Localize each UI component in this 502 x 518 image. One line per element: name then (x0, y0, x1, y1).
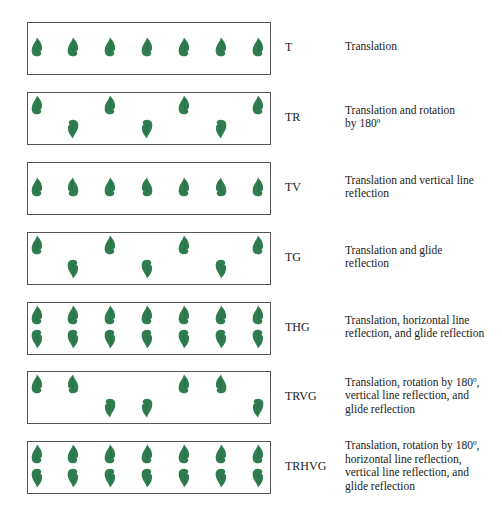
leaf-icon (67, 374, 79, 394)
pattern-description: Translation (345, 40, 502, 54)
pattern-row-thg: THGTranslation, horizontal linereflectio… (0, 302, 502, 356)
pattern-description: Translation and glidereflection (345, 244, 502, 271)
pattern-row-trhvg: TRHVGTranslation, rotation by 180º,horiz… (0, 441, 502, 495)
pattern-description: Translation, rotation by 180º,horizontal… (345, 439, 502, 493)
leaf-icon (215, 37, 227, 57)
leaf-icon (31, 374, 43, 394)
leaf-icon (215, 329, 227, 349)
leaf-icon (252, 37, 264, 57)
description-line: vertical line reflection, and (345, 466, 502, 480)
leaf-icon (178, 329, 190, 349)
leaf-icon (215, 305, 227, 325)
leaf-icon (141, 329, 153, 349)
leaf-icon (67, 468, 79, 488)
description-line: Translation, horizontal line (345, 314, 502, 328)
pattern-description: Translation, horizontal linereflection, … (345, 314, 502, 341)
leaf-icon (31, 235, 43, 255)
leaf-icon (252, 95, 264, 115)
description-line: Translation, rotation by 180º, (345, 376, 502, 390)
leaf-icon (31, 305, 43, 325)
leaf-icon (141, 37, 153, 57)
pattern-code: THG (285, 320, 310, 335)
pattern-description: Translation and rotationby 180º (345, 104, 502, 131)
leaf-icon (178, 95, 190, 115)
leaf-icon (31, 444, 43, 464)
leaf-icon (178, 374, 190, 394)
pattern-description: Translation and vertical linereflection (345, 174, 502, 201)
leaf-icon (31, 37, 43, 57)
description-line: Translation, rotation by 180º, (345, 439, 502, 453)
leaf-icon (215, 259, 227, 279)
pattern-row-tv: TVTranslation and vertical linereflectio… (0, 162, 502, 216)
description-line: by 180º (345, 117, 502, 131)
leaf-icon (67, 259, 79, 279)
leaf-icon (252, 468, 264, 488)
leaf-icon (104, 468, 116, 488)
description-line: vertical line reflection, and (345, 389, 502, 403)
leaf-icon (215, 444, 227, 464)
pattern-description: Translation, rotation by 180º,vertical l… (345, 376, 502, 417)
leaf-icon (178, 37, 190, 57)
leaf-icon (141, 398, 153, 418)
description-line: reflection (345, 257, 502, 271)
leaf-icon (141, 305, 153, 325)
description-line: glide reflection (345, 403, 502, 417)
leaf-icon (104, 95, 116, 115)
leaf-icon (252, 329, 264, 349)
leaf-icon (104, 398, 116, 418)
pattern-code: TG (285, 250, 301, 265)
description-line: reflection, and glide reflection (345, 327, 502, 341)
description-line: reflection (345, 187, 502, 201)
pattern-row-tg: TGTranslation and glidereflection (0, 232, 502, 286)
pattern-code: TR (285, 110, 300, 125)
description-line: Translation and vertical line (345, 174, 502, 188)
leaf-icon (178, 235, 190, 255)
leaf-icon (67, 177, 79, 197)
leaf-icon (141, 119, 153, 139)
leaf-icon (104, 177, 116, 197)
leaf-icon (67, 305, 79, 325)
leaf-icon (178, 468, 190, 488)
leaf-icon (252, 235, 264, 255)
leaf-icon (104, 444, 116, 464)
pattern-code: TRVG (285, 389, 317, 404)
pattern-code: TRHVG (285, 459, 326, 474)
leaf-icon (252, 305, 264, 325)
leaf-icon (31, 329, 43, 349)
leaf-icon (215, 177, 227, 197)
leaf-icon (104, 235, 116, 255)
leaf-icon (252, 177, 264, 197)
leaf-icon (215, 119, 227, 139)
leaf-icon (178, 444, 190, 464)
leaf-icon (31, 95, 43, 115)
pattern-row-trvg: TRVGTranslation, rotation by 180º,vertic… (0, 371, 502, 425)
leaf-icon (215, 468, 227, 488)
description-line: Translation (345, 40, 502, 54)
description-line: horizontal line reflection, (345, 453, 502, 467)
leaf-icon (67, 444, 79, 464)
leaf-icon (31, 177, 43, 197)
leaf-icon (252, 444, 264, 464)
leaf-icon (67, 329, 79, 349)
pattern-code: T (285, 40, 292, 55)
description-line: Translation and rotation (345, 104, 502, 118)
leaf-icon (104, 37, 116, 57)
leaf-icon (67, 37, 79, 57)
leaf-icon (67, 119, 79, 139)
pattern-row-tr: TRTranslation and rotationby 180º (0, 92, 502, 146)
pattern-code: TV (285, 180, 301, 195)
leaf-icon (252, 398, 264, 418)
leaf-icon (141, 177, 153, 197)
leaf-icon (215, 374, 227, 394)
leaf-icon (141, 259, 153, 279)
leaf-icon (141, 468, 153, 488)
description-line: glide reflection (345, 480, 502, 494)
pattern-row-t: TTranslation (0, 22, 502, 76)
leaf-icon (178, 177, 190, 197)
leaf-icon (141, 444, 153, 464)
leaf-icon (104, 305, 116, 325)
leaf-icon (31, 468, 43, 488)
description-line: Translation and glide (345, 244, 502, 258)
leaf-icon (178, 305, 190, 325)
leaf-icon (104, 329, 116, 349)
